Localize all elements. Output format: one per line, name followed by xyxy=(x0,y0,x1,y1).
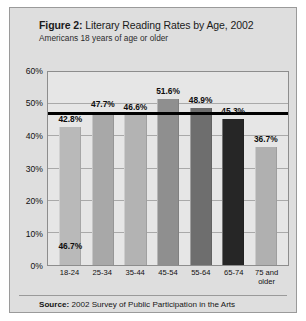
x-axis-tick-label: 55-64 xyxy=(184,268,217,292)
y-axis-tick-label: 10% xyxy=(26,229,43,239)
bar-slot: 42.8%46.7% xyxy=(54,72,87,265)
bar-slot: 45.3% xyxy=(217,72,250,265)
figure-header: Figure 2: Literary Reading Rates by Age,… xyxy=(39,19,289,43)
x-axis: 18-2425-3435-4445-5455-6465-7475 and old… xyxy=(47,268,289,292)
source-text: 2002 Survey of Public Participation in t… xyxy=(71,300,235,309)
figure-title-text: Literary Reading Rates by Age, 2002 xyxy=(85,19,253,31)
bar-value-label: 42.8% xyxy=(58,114,82,124)
bar-value-label: 46.6% xyxy=(124,102,148,112)
bar-slot: 46.6% xyxy=(119,72,152,265)
bar-value-label: 45.3% xyxy=(221,106,245,116)
y-axis-tick-label: 50% xyxy=(26,98,43,108)
bar-slot: 48.9% xyxy=(184,72,217,265)
bar-slot: 36.7% xyxy=(249,72,282,265)
reference-line-label: 46.7% xyxy=(58,241,82,251)
bar[interactable]: 51.6% xyxy=(157,99,179,265)
bar-slot: 51.6% xyxy=(152,72,185,265)
bar[interactable]: 47.7% xyxy=(92,112,114,265)
x-axis-tick-label: 45-54 xyxy=(152,268,185,292)
figure-subtitle: Americans 18 years of age or older xyxy=(39,33,289,43)
figure-card: Figure 2: Literary Reading Rates by Age,… xyxy=(9,7,297,313)
bar-value-label: 51.6% xyxy=(156,86,180,96)
y-axis-tick-label: 20% xyxy=(26,196,43,206)
bar[interactable]: 42.8%46.7% xyxy=(59,127,81,265)
figure-number: Figure 2: xyxy=(39,19,82,31)
y-axis: 0%10%20%30%40%50%60% xyxy=(10,71,47,266)
x-axis-tick-label: 18-24 xyxy=(53,268,86,292)
average-reference-line xyxy=(48,112,288,115)
y-axis-tick-label: 60% xyxy=(26,66,43,76)
source-note: Source: 2002 Survey of Public Participat… xyxy=(39,300,235,309)
plot-area: 42.8%46.7%47.7%46.6%51.6%48.9%45.3%36.7% xyxy=(47,71,289,266)
bars-layer: 42.8%46.7%47.7%46.6%51.6%48.9%45.3%36.7% xyxy=(48,72,288,265)
x-axis-tick-label: 35-44 xyxy=(119,268,152,292)
footer-divider xyxy=(19,295,287,296)
bar-value-label: 36.7% xyxy=(254,134,278,144)
x-axis-tick-label: 75 and older xyxy=(250,268,283,292)
y-axis-tick-label: 40% xyxy=(26,131,43,141)
bar[interactable]: 36.7% xyxy=(255,147,277,265)
page-title: Figure 2: Literary Reading Rates by Age,… xyxy=(39,19,289,31)
bar-value-label: 47.7% xyxy=(91,99,115,109)
x-axis-tick-label: 25-34 xyxy=(86,268,119,292)
bar[interactable]: 45.3% xyxy=(222,119,244,265)
bar-value-label: 48.9% xyxy=(189,95,213,105)
bar[interactable]: 46.6% xyxy=(124,115,146,265)
y-axis-tick-label: 30% xyxy=(26,164,43,174)
bar-slot: 47.7% xyxy=(87,72,120,265)
x-axis-tick-label: 65-74 xyxy=(217,268,250,292)
bar[interactable]: 48.9% xyxy=(190,108,212,265)
y-axis-tick-label: 0% xyxy=(31,261,43,271)
source-label: Source: xyxy=(39,300,69,309)
